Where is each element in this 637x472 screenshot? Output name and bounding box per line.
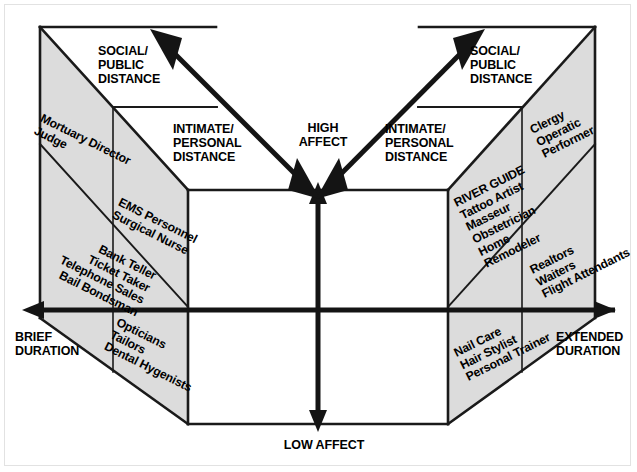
diagram-page: SOCIAL/ PUBLIC DISTANCE INTIMATE/ PERSON… [0,0,637,472]
label-right-intimate-personal-distance: INTIMATE/ PERSONAL DISTANCE [385,122,454,164]
label-high-affect: HIGH AFFECT [293,121,353,149]
label-left-social-public-distance: SOCIAL/ PUBLIC DISTANCE [98,44,160,86]
label-left-intimate-personal-distance: INTIMATE/ PERSONAL DISTANCE [173,122,242,164]
brief-duration-arrowhead [22,301,44,319]
label-extended-duration: EXTENDED DURATION [556,330,623,358]
label-brief-duration: BRIEF DURATION [15,330,79,358]
distance-arrows [150,29,485,199]
label-low-affect: LOW AFFECT [268,438,380,452]
extended-duration-arrowhead [594,301,616,319]
label-right-social-public-distance: SOCIAL/ PUBLIC DISTANCE [470,44,532,86]
